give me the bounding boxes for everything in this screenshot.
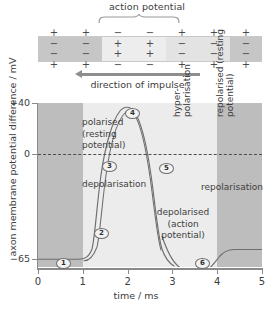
annotation-depolarised: depolarised (action potential) [151,207,215,242]
plot-area: polarised (resting potential) depolarisa… [38,103,262,267]
x-tick [128,269,129,274]
annotation-line: potential) [82,140,138,152]
action-potential-brace-label: action potential [92,1,202,12]
x-tick-label-0: 0 [28,276,48,287]
charge: − [70,49,102,59]
annotation-hyperpolarisation: hyper- polarisation [172,47,186,117]
annotation-repolarised-resting: repolarised (resting potential) [215,0,229,117]
annotation-line: (resting [82,129,138,141]
y-axis-title: axon membrane potential difference / mV [7,89,18,257]
curly-brace-icon [98,14,180,24]
annotation-line: hyper- [172,47,182,117]
curve-point-2: 2 [94,228,109,239]
annotation-line: potential) [151,230,215,242]
x-tick-label-4: 4 [207,276,227,287]
y-axis [37,103,38,269]
x-axis-title: time / ms [76,290,196,301]
annotation-line: potential) [225,0,235,117]
y-tick [32,103,38,104]
curve-point-6: 6 [195,258,210,269]
curve-point-5: 5 [159,163,174,174]
charge: + [102,49,134,59]
charge: − [134,60,166,70]
x-tick [38,269,39,274]
annotation-line: repolarised (resting [215,0,225,117]
charge: + [70,60,102,70]
annotation-polarised: polarised (resting potential) [82,117,138,152]
x-tick-label-3: 3 [162,276,182,287]
y-tick [32,154,38,155]
x-tick-label-5: 5 [252,276,272,287]
charge: + [38,60,70,70]
annotation-depolarisation: depolarisation [82,179,152,191]
action-potential-chart: polarised (resting potential) depolarisa… [0,95,272,310]
x-tick-label-1: 1 [73,276,93,287]
curve-point-1: 1 [56,258,71,269]
charge: − [38,49,70,59]
y-tick [32,259,38,260]
charge: − [102,60,134,70]
annotation-line: (action [151,219,215,231]
x-tick [172,269,173,274]
charge: − [134,28,166,38]
curve-point-4: 4 [125,108,140,119]
charge: + [70,28,102,38]
annotation-repolarisation: repolarisation [201,182,263,194]
x-tick [262,269,263,274]
x-axis [37,268,263,270]
zero-potential-dashed-line [38,154,262,155]
charge: + [166,28,198,38]
annotation-line: depolarised [151,207,215,219]
annotation-line: polarisation [182,47,192,117]
x-tick-label-2: 2 [118,276,138,287]
charge: + [38,28,70,38]
x-tick [83,269,84,274]
action-potential-figure: action potential + + − − + + + − − + + −… [0,0,272,310]
charge: + [134,49,166,59]
x-tick [217,269,218,274]
curve-point-3: 3 [102,161,117,172]
charge: − [102,28,134,38]
